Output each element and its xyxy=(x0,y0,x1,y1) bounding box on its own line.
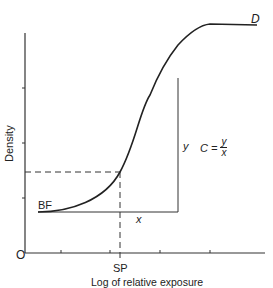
x-label: x xyxy=(136,214,142,225)
bf-label: BF xyxy=(38,200,52,211)
formula-denominator: x xyxy=(221,148,226,158)
formula-fraction: y x xyxy=(220,137,227,158)
contrast-formula: C = y x xyxy=(200,137,227,158)
d-label: D xyxy=(251,13,260,25)
x-axis-label: Log of relative exposure xyxy=(91,277,203,288)
sp-label: SP xyxy=(113,263,128,274)
formula-lhs: C = xyxy=(200,142,217,154)
chart-canvas xyxy=(0,0,273,288)
y-label: y xyxy=(183,141,189,152)
origin-label: O xyxy=(16,249,25,261)
characteristic-curve xyxy=(38,24,257,212)
y-axis-label: Density xyxy=(4,125,15,162)
